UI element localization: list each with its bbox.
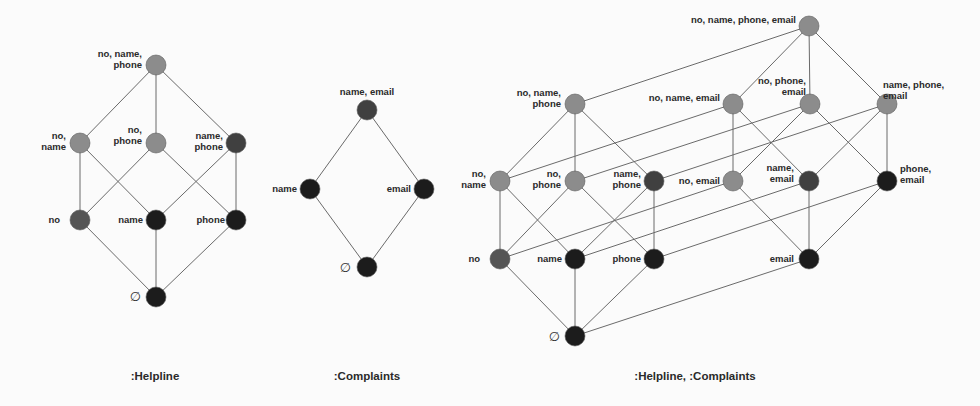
empty-set-symbol: ∅: [340, 260, 351, 275]
lattice-node-phone-email: [877, 171, 897, 191]
node-label: name: [118, 214, 143, 225]
node-label: name,phone: [195, 130, 224, 152]
lattice-node-no: [490, 249, 510, 269]
node-label: name, email: [340, 86, 394, 97]
edge: [809, 181, 887, 259]
lattice-node-no-name-phone: [565, 94, 585, 114]
edge: [575, 259, 809, 336]
edge: [80, 65, 156, 143]
lattice-node-name-phone: [226, 133, 246, 153]
lattice-node-email: [414, 179, 434, 199]
lattice-node-name-email: [357, 100, 377, 120]
lattice-node-no-name: [490, 171, 510, 191]
empty-set-symbol: ∅: [130, 289, 141, 304]
node-label: phone: [613, 253, 642, 264]
node-label: name,email: [767, 162, 794, 184]
node-label: no,name: [461, 168, 486, 190]
edge: [156, 220, 236, 297]
edges-helpline: [80, 65, 236, 297]
lattice-node-no-email: [723, 171, 743, 191]
node-label: no: [48, 214, 60, 225]
node-label: name,phone: [613, 168, 642, 190]
labels-complaints: name, emailnameemail∅: [272, 86, 411, 275]
caption-helpline-complaints: :Helpline, :Complaints: [634, 370, 755, 382]
lattice-node-name: [565, 249, 585, 269]
lattice-node-name-email: [799, 171, 819, 191]
node-label: no, name,phone: [517, 87, 561, 109]
lattice-node-name-phone: [644, 171, 664, 191]
node-label: no, name, phone, email: [691, 14, 796, 25]
lattice-node-no-phone: [146, 133, 166, 153]
node-label: email: [387, 183, 411, 194]
edge: [80, 220, 156, 297]
node-label: no, email: [679, 175, 720, 186]
lattice-node-phone: [644, 249, 664, 269]
caption-complaints: :Complaints: [334, 370, 400, 382]
node-label: name: [537, 253, 562, 264]
nodes-complaints: [300, 100, 434, 277]
edge: [575, 259, 654, 336]
lattice-diagrams: no, name,phoneno,nameno,phonename,phonen…: [0, 0, 980, 406]
lattice-node-empty: [146, 287, 166, 307]
edge: [654, 181, 887, 259]
edge: [575, 181, 809, 259]
nodes-helpline: [70, 55, 246, 307]
caption-helpline: :Helpline: [131, 370, 180, 382]
lattice-node-no: [70, 210, 90, 230]
edge: [310, 189, 367, 267]
captions-layer: :Helpline :Complaints :Helpline, :Compla…: [131, 370, 756, 382]
edge: [367, 189, 424, 267]
labels-helpline: no, name,phoneno,nameno,phonename,phonen…: [41, 48, 225, 304]
lattice-node-no-name-email: [723, 94, 743, 114]
node-label: name: [272, 183, 297, 194]
edge: [809, 26, 887, 104]
node-label: no, name, email: [649, 92, 720, 103]
node-label: no,phone: [533, 168, 562, 190]
lattice-node-no-name-phone: [146, 55, 166, 75]
edge: [809, 26, 810, 104]
edge: [500, 259, 575, 336]
edge: [310, 110, 367, 189]
node-label: no,phone: [114, 124, 143, 146]
node-label: no, phone,email: [758, 75, 806, 97]
node-label: no,name: [41, 130, 66, 152]
node-label: email: [770, 253, 794, 264]
lattice-node-no-name: [70, 133, 90, 153]
lattice-node-phone: [226, 210, 246, 230]
node-label: phone,email: [900, 163, 931, 185]
edge: [500, 104, 575, 181]
lattice-node-empty: [565, 326, 585, 346]
lattice-node-no-phone-email: [800, 94, 820, 114]
lattice-node-empty: [357, 257, 377, 277]
lattice-node-name: [146, 210, 166, 230]
lattice-node-name: [300, 179, 320, 199]
edge: [367, 110, 424, 189]
node-label: phone: [197, 214, 226, 225]
lattice-node-no-phone: [565, 171, 585, 191]
edge: [500, 181, 733, 259]
lattice-node-email: [799, 249, 819, 269]
node-label: no: [468, 253, 480, 264]
empty-set-symbol: ∅: [549, 329, 560, 344]
lattice-node-no-name-phone-email: [799, 16, 819, 36]
node-label: name, phone,email: [883, 79, 944, 101]
node-label: no, name,phone: [98, 48, 142, 70]
